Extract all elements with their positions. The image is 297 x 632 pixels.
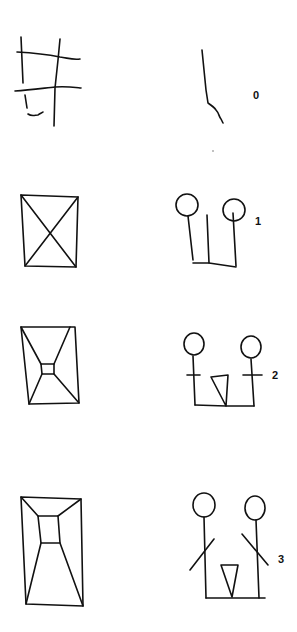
row-0-number-label: 0 [253, 89, 259, 101]
row-1-rectangle-x [21, 195, 78, 267]
row-2-number-label: 2 [272, 369, 278, 381]
row-2-two-figures [184, 333, 262, 406]
row-3-number-label: 3 [278, 553, 284, 565]
row-1-number-label: 1 [255, 215, 261, 227]
row-1-two-figures [176, 194, 245, 267]
row-0-grid-sketch [15, 37, 81, 126]
row-3-rectangle-corridor [21, 497, 83, 606]
stray-dot [212, 150, 213, 151]
row-0-wavy-line [202, 50, 223, 123]
row-2-rectangle-square [21, 327, 79, 404]
row-3-two-stick-figures [190, 493, 268, 598]
